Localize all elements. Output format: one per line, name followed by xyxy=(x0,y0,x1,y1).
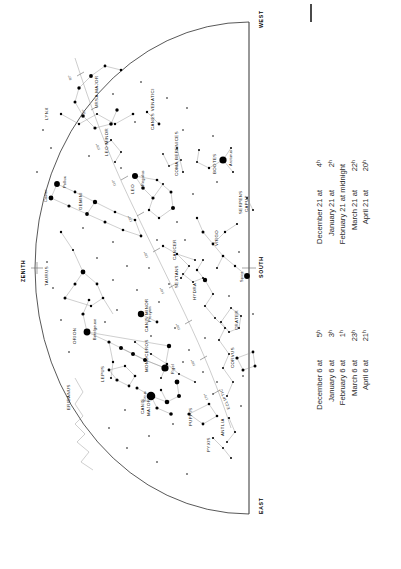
star-chart-page: .dome{fill:none;stroke:#3a3a3a;stroke-wi… xyxy=(0,0,401,569)
visibility-row: March 6 at 23ʰ xyxy=(349,330,361,452)
constellation-lepus: LEPUS xyxy=(101,366,105,382)
star-label-pollux: Pollux xyxy=(63,176,67,188)
constellation-canis-major-line2: MAJOR xyxy=(147,399,151,416)
constellation-eridanus: ERIDANUS xyxy=(67,384,71,410)
cardinal-east: EAST xyxy=(259,497,264,514)
visibility-times-lower: December 6 at 5ʰ January 6 at 3ʰ Februar… xyxy=(314,330,372,452)
visibility-date: January 6 at xyxy=(326,360,338,452)
constellation-serpens-line1: SERPENS xyxy=(239,190,243,214)
constellation-sextans: SEXTANS xyxy=(175,265,179,288)
star-label-spica: Spica xyxy=(240,271,244,282)
visibility-time: 22ʰ xyxy=(349,160,361,190)
visibility-row: February 21 at midnight xyxy=(337,160,349,282)
star-label-sirius: Sirius xyxy=(143,391,147,402)
visibility-row: January 6 at 3ʰ xyxy=(326,330,338,452)
star-label-rigel: Rigel xyxy=(171,364,175,374)
star-chart-figure: .dome{fill:none;stroke:#3a3a3a;stroke-wi… xyxy=(17,8,267,528)
visibility-date: March 6 at xyxy=(349,360,361,452)
visibility-time: 21ʰ xyxy=(360,330,372,360)
visibility-time: 2ʰ xyxy=(326,160,338,190)
star-label-procyon: Procyon xyxy=(148,306,152,322)
constellation-taurus: TAURUS xyxy=(45,266,49,286)
sky-map-svg: .dome{fill:none;stroke:#3a3a3a;stroke-wi… xyxy=(17,8,267,528)
visibility-times-upper: December 21 at 4ʰ January 21 at 2ʰ Febru… xyxy=(314,160,372,282)
visibility-date: March 21 at xyxy=(349,190,361,282)
visibility-date: January 21 at xyxy=(326,190,338,282)
constellation-leo-minor: LEO MINOR xyxy=(105,128,109,156)
visibility-time: 4ʰ xyxy=(314,160,326,190)
visibility-date: April 6 at xyxy=(360,360,372,452)
star-label-arcturus: Arcturus xyxy=(229,150,233,166)
scan-edge-mark xyxy=(310,4,312,22)
visibility-row: April 6 at 21ʰ xyxy=(360,330,372,452)
constellation-leo: LEO xyxy=(131,184,135,194)
star-label-castor: Castor xyxy=(44,189,48,202)
visibility-time: 1ʰ xyxy=(337,330,349,360)
visibility-time: 20ʰ xyxy=(360,160,372,190)
visibility-row: April 21 at 20ʰ xyxy=(360,160,372,282)
constellation-virgo: VIRGO xyxy=(215,230,219,246)
visibility-row: December 6 at 5ʰ xyxy=(314,330,326,452)
constellation-orion: ORION xyxy=(73,328,77,344)
constellation-canes-venatici: CANES VENATICI xyxy=(151,88,155,130)
visibility-row: February 6 at 1ʰ xyxy=(337,330,349,452)
zenith-label: ZENITH xyxy=(21,260,26,282)
constellation-serpens-line2: CAPUT xyxy=(245,195,249,212)
constellation-gemini: GEMINI xyxy=(79,192,83,210)
visibility-row: December 21 at 4ʰ xyxy=(314,160,326,282)
star-label-betelgeuse: Betelgeuse xyxy=(93,319,97,340)
visibility-time: 3ʰ xyxy=(326,330,338,360)
constellation-monoceros: MONOCEROS xyxy=(145,339,149,372)
constellation-pyxis: PYXIS xyxy=(207,437,211,452)
visibility-date: April 21 at xyxy=(360,190,372,282)
visibility-date: December 6 at xyxy=(314,360,326,452)
visibility-row: January 21 at 2ʰ xyxy=(326,160,338,282)
visibility-date: February 21 at midnight xyxy=(337,164,349,282)
visibility-time: 5ʰ xyxy=(314,330,326,360)
constellation-lynx: LYNX xyxy=(45,107,49,120)
constellation-antlia: ANTLIA xyxy=(221,418,225,436)
visibility-time: 23ʰ xyxy=(349,330,361,360)
constellation-corvus: CORVUS xyxy=(231,347,235,368)
visibility-row: March 21 at 22ʰ xyxy=(349,160,361,282)
constellation-hydra: HYDRA xyxy=(193,283,197,300)
constellation-crater: CRATER xyxy=(235,310,239,330)
star-label-regulus: Regulus xyxy=(141,170,145,186)
constellation-puppis: PUPPIS xyxy=(189,408,193,426)
visibility-date: February 6 at xyxy=(337,360,349,452)
constellation-bootes: BOOTES xyxy=(213,153,217,174)
constellation-cancer: CANCER xyxy=(173,239,177,260)
cardinal-south: SOUTH xyxy=(259,256,264,278)
cardinal-west: WEST xyxy=(259,10,264,28)
constellation-ursa-major: URSA MAJOR xyxy=(95,76,99,108)
constellation-coma-berenices: COMA BERENICES xyxy=(175,131,179,176)
visibility-date: December 21 at xyxy=(314,190,326,282)
